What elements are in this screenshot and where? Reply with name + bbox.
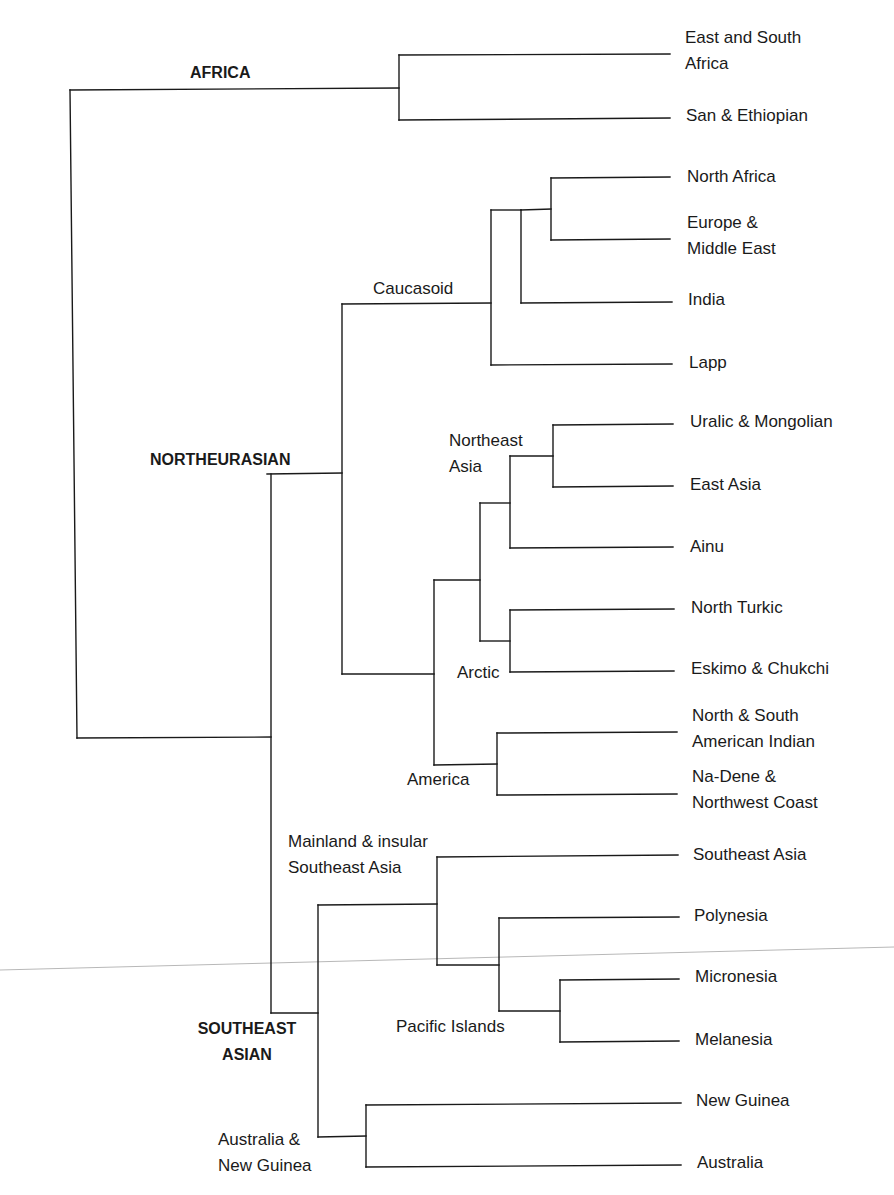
tree-branch — [399, 54, 670, 55]
major-label-africa: AFRICA — [190, 60, 250, 86]
tree-branch — [499, 917, 679, 918]
tree-branch — [70, 88, 399, 90]
leaf-label-east-asia: East Asia — [690, 472, 761, 498]
tree-branch — [560, 1041, 679, 1042]
tree-branch — [437, 855, 678, 857]
subgroup-label-northeast-asia: Northeast Asia — [449, 428, 523, 480]
tree-branch — [553, 486, 673, 487]
tree-branch — [70, 90, 77, 738]
leaf-label-micronesia: Micronesia — [695, 964, 777, 990]
leaf-label-san-ethiopian: San & Ethiopian — [686, 103, 808, 129]
tree-branch — [434, 764, 497, 765]
leaf-label-uralic-mongolian: Uralic & Mongolian — [690, 409, 833, 435]
leaf-label-australia: Australia — [697, 1150, 763, 1176]
leaf-label-east-south-africa: East and South Africa — [685, 25, 801, 77]
subgroup-label-america: America — [407, 767, 469, 793]
leaf-label-new-guinea: New Guinea — [696, 1088, 790, 1114]
tree-branch — [366, 1103, 681, 1105]
tree-branch — [510, 547, 673, 548]
tree-branch — [497, 794, 677, 795]
tree-branch — [497, 732, 677, 733]
leaf-label-lapp: Lapp — [689, 350, 727, 376]
leaf-label-europe-middle-east: Europe & Middle East — [687, 210, 776, 262]
tree-branch — [399, 118, 670, 120]
major-label-northeurasian: NORTHEURASIAN — [150, 447, 290, 473]
tree-branch — [551, 239, 670, 240]
leaf-label-melanesia: Melanesia — [695, 1027, 773, 1053]
tree-branch — [77, 737, 271, 738]
tree-branch — [318, 1136, 366, 1137]
subgroup-label-mainland-sea: Mainland & insular Southeast Asia — [288, 829, 428, 881]
leaf-label-southeast-asia: Southeast Asia — [693, 842, 806, 868]
subgroup-label-pacific-islands: Pacific Islands — [396, 1014, 505, 1040]
tree-branch — [560, 979, 679, 980]
tree-branch — [342, 303, 491, 304]
leaf-label-north-africa: North Africa — [687, 164, 776, 190]
leaf-label-american-indian: North & South American Indian — [692, 703, 815, 755]
tree-branch — [510, 609, 674, 610]
major-label-southeast-asian: SOUTHEAST ASIAN — [172, 1016, 322, 1068]
tree-branch — [267, 473, 342, 474]
tree-branch — [366, 1165, 681, 1167]
tree-branch — [318, 904, 437, 905]
tree-branch — [521, 209, 551, 210]
leaf-label-north-turkic: North Turkic — [691, 595, 783, 621]
leaf-label-ainu: Ainu — [690, 534, 724, 560]
tree-branch — [491, 364, 672, 365]
subgroup-label-australia-ng: Australia & New Guinea — [218, 1127, 312, 1179]
tree-branch — [551, 177, 670, 178]
leaf-label-na-dene: Na-Dene & Northwest Coast — [692, 764, 818, 816]
subgroup-label-caucasoid: Caucasoid — [373, 276, 453, 302]
tree-branch — [510, 671, 674, 672]
leaf-label-india: India — [688, 287, 725, 313]
tree-branch — [553, 424, 673, 425]
tree-branch — [521, 302, 672, 303]
subgroup-label-arctic: Arctic — [457, 660, 500, 686]
leaf-label-polynesia: Polynesia — [694, 903, 768, 929]
leaf-label-eskimo-chukchi: Eskimo & Chukchi — [691, 656, 829, 682]
